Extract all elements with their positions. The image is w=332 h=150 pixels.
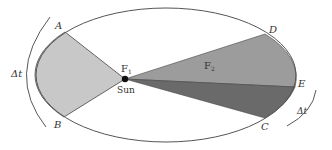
- label-c: C: [261, 121, 269, 132]
- label-delta-t-right: Δt: [296, 106, 307, 116]
- label-delta-t-left: Δt: [10, 68, 23, 79]
- label-sun: Sun: [117, 85, 135, 95]
- label-b: B: [53, 119, 61, 130]
- label-d: D: [268, 24, 277, 35]
- sun-icon: [122, 76, 128, 82]
- label-f1: F1: [121, 63, 132, 75]
- label-e: E: [297, 78, 306, 89]
- label-a: A: [54, 20, 62, 31]
- kepler-diagram: A B C D E F1 Sun F2 Δt Δt: [0, 0, 332, 150]
- diagram-canvas: A B C D E F1 Sun F2 Δt Δt: [0, 0, 332, 150]
